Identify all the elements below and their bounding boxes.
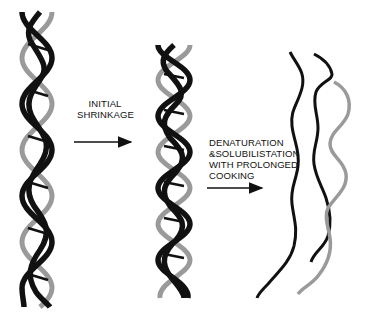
label-denaturation: DENATURATION &SOLUBILISTATION WITH PROLO… <box>209 137 299 181</box>
label-initial-shrinkage: INITIAL SHRINKAGE <box>77 98 133 120</box>
helix-strand-dark-2 <box>163 45 184 298</box>
label-line: COOKING <box>209 170 299 181</box>
native-triple-helix <box>22 12 52 307</box>
label-line: &SOLUBILISTATION <box>209 148 299 159</box>
label-line: WITH PROLONGED <box>209 159 299 170</box>
label-line: DENATURATION <box>209 137 299 148</box>
label-line: SHRINKAGE <box>77 109 133 120</box>
collagen-diagram <box>0 0 368 321</box>
label-line: INITIAL <box>77 98 133 109</box>
shrunken-triple-helix <box>158 45 190 298</box>
